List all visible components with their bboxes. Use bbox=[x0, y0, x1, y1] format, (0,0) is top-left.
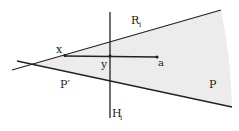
diagram-svg: R i x y a P′ P H i bbox=[0, 0, 239, 131]
label-a: a bbox=[158, 57, 164, 68]
label-p: P bbox=[209, 78, 217, 91]
label-x: x bbox=[56, 43, 63, 56]
label-h-subscript: i bbox=[120, 114, 123, 122]
point-x bbox=[63, 54, 66, 57]
label-r-subscript: i bbox=[139, 21, 142, 29]
label-p-prime: P′ bbox=[60, 78, 70, 91]
wedge-diagram: R i x y a P′ P H i bbox=[0, 0, 239, 131]
point-y bbox=[108, 54, 111, 57]
label-y: y bbox=[100, 58, 108, 71]
